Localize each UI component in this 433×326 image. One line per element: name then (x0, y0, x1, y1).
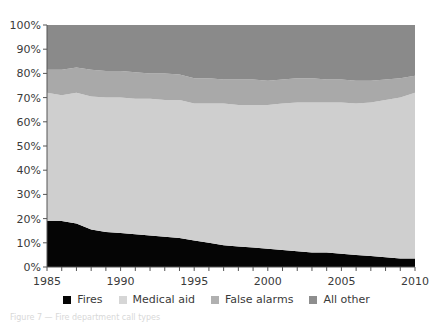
y-tick-label: 80% (17, 67, 41, 80)
y-tick-label: 10% (17, 237, 41, 250)
legend-swatch-all-other (309, 296, 317, 304)
legend-item-all-other: All other (309, 293, 369, 306)
stacked-area-chart: 0%10%20%30%40%50%60%70%80%90%100%1985199… (0, 0, 433, 300)
x-tick-label: 2000 (254, 275, 282, 288)
chart-legend: Fires Medical aid False alarms All other (0, 293, 433, 306)
legend-label-all-other: All other (323, 293, 369, 306)
y-tick-label: 30% (17, 188, 41, 201)
legend-item-fires: Fires (63, 293, 102, 306)
chart-areas (47, 25, 415, 267)
y-tick-label: 100% (10, 19, 41, 32)
legend-swatch-fires (63, 296, 71, 304)
y-tick-label: 70% (17, 92, 41, 105)
legend-swatch-medical-aid (119, 296, 127, 304)
y-tick-label: 0% (24, 261, 41, 274)
x-tick-label: 1990 (107, 275, 135, 288)
y-tick-label: 50% (17, 140, 41, 153)
y-tick-label: 60% (17, 116, 41, 129)
y-tick-label: 40% (17, 164, 41, 177)
legend-label-medical-aid: Medical aid (133, 293, 195, 306)
x-tick-label: 2010 (401, 275, 429, 288)
legend-item-false-alarms: False alarms (211, 293, 293, 306)
legend-label-fires: Fires (77, 293, 102, 306)
y-tick-label: 90% (17, 43, 41, 56)
legend-swatch-false-alarms (211, 296, 219, 304)
x-tick-label: 1985 (33, 275, 61, 288)
y-tick-label: 20% (17, 213, 41, 226)
figure-caption: Figure 7 — Fire department call types (10, 313, 160, 322)
x-tick-label: 2005 (327, 275, 355, 288)
legend-item-medical-aid: Medical aid (119, 293, 195, 306)
x-tick-label: 1995 (180, 275, 208, 288)
legend-label-false-alarms: False alarms (225, 293, 293, 306)
